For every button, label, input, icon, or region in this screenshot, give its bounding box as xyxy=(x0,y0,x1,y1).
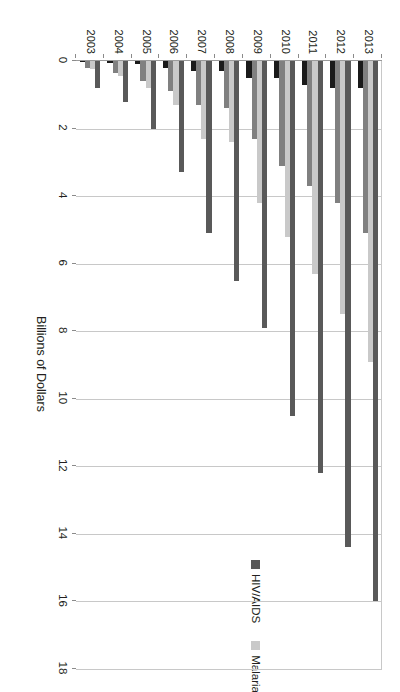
bar-hss-2011[interactable] xyxy=(302,61,307,85)
category-axis-tick xyxy=(270,54,271,58)
bar-hiv-aids-2003[interactable] xyxy=(95,61,100,88)
bar-malaria-2012[interactable] xyxy=(340,61,345,314)
bar-hss-2009[interactable] xyxy=(246,61,251,78)
category-axis-tick xyxy=(242,54,243,58)
bar-tuberculosis-2012[interactable] xyxy=(335,61,340,203)
bar-tuberculosis-2010[interactable] xyxy=(279,61,284,166)
value-axis-tick xyxy=(72,60,76,61)
category-axis-tick xyxy=(75,54,76,58)
category-axis-label-2005: 2005 xyxy=(140,30,151,54)
bar-hiv-aids-2006[interactable] xyxy=(179,61,184,172)
category-axis-label-2004: 2004 xyxy=(112,30,123,54)
bar-hiv-aids-2011[interactable] xyxy=(318,61,323,473)
bar-hss-2003[interactable] xyxy=(80,61,85,62)
category-axis-tick xyxy=(353,54,354,58)
bar-malaria-2007[interactable] xyxy=(201,61,206,139)
bar-row xyxy=(358,61,363,669)
bar-row xyxy=(191,61,196,669)
bar-hss-2013[interactable] xyxy=(358,61,363,88)
value-axis-tick-label: 12 xyxy=(57,459,69,472)
category-axis-label-2003: 2003 xyxy=(84,30,95,54)
bar-malaria-2008[interactable] xyxy=(229,61,234,142)
category-axis-label-2013: 2013 xyxy=(363,30,374,54)
value-axis-tick xyxy=(72,195,76,196)
bar-row xyxy=(201,61,206,669)
bar-hss-2006[interactable] xyxy=(163,61,168,68)
bar-row xyxy=(262,61,267,669)
bar-row xyxy=(290,61,295,669)
category-axis-label-2010: 2010 xyxy=(279,30,290,54)
bar-row xyxy=(168,61,173,669)
value-axis-tick xyxy=(72,600,76,601)
bar-row xyxy=(279,61,284,669)
bar-malaria-2011[interactable] xyxy=(312,61,317,274)
bar-hss-2007[interactable] xyxy=(191,61,196,71)
gridline xyxy=(76,669,382,670)
bar-chart-figure: HIV/AIDSMalariaTuberculosisHSS 024681012… xyxy=(0,0,400,692)
bar-group-2003 xyxy=(76,61,104,669)
value-axis-tick-label: 2 xyxy=(57,124,69,130)
value-axis-tick-label: 0 xyxy=(57,57,69,63)
bar-tuberculosis-2007[interactable] xyxy=(196,61,201,105)
value-axis-tick xyxy=(72,263,76,264)
bar-hss-2004[interactable] xyxy=(107,61,112,63)
bar-tuberculosis-2013[interactable] xyxy=(363,61,368,233)
category-axis-label-2012: 2012 xyxy=(335,30,346,54)
bar-malaria-2010[interactable] xyxy=(285,61,290,237)
bar-malaria-2005[interactable] xyxy=(146,61,151,88)
bar-hiv-aids-2008[interactable] xyxy=(234,61,239,281)
plot-area xyxy=(76,60,382,669)
value-axis-tick xyxy=(72,465,76,466)
bar-row xyxy=(95,61,100,669)
category-axis-tick xyxy=(186,54,187,58)
bar-hiv-aids-2009[interactable] xyxy=(262,61,267,328)
bar-tuberculosis-2005[interactable] xyxy=(140,61,145,81)
rotated-figure-wrapper: HIV/AIDSMalariaTuberculosisHSS 024681012… xyxy=(0,0,400,692)
bar-hss-2010[interactable] xyxy=(274,61,279,78)
value-axis-tick xyxy=(72,128,76,129)
bar-row xyxy=(135,61,140,669)
bar-tuberculosis-2004[interactable] xyxy=(113,61,118,73)
bar-malaria-2003[interactable] xyxy=(90,61,95,69)
bar-tuberculosis-2011[interactable] xyxy=(307,61,312,186)
bar-tuberculosis-2008[interactable] xyxy=(224,61,229,108)
bar-row xyxy=(345,61,350,669)
bar-row xyxy=(330,61,335,669)
bar-hiv-aids-2007[interactable] xyxy=(206,61,211,233)
bar-row xyxy=(173,61,178,669)
category-axis-tick xyxy=(131,54,132,58)
category-axis-tick xyxy=(325,54,326,58)
value-axis-tick-label: 6 xyxy=(57,259,69,265)
bar-hiv-aids-2005[interactable] xyxy=(151,61,156,129)
bar-hiv-aids-2013[interactable] xyxy=(373,61,378,601)
value-axis-tick xyxy=(72,668,76,669)
bar-row xyxy=(368,61,373,669)
bar-hiv-aids-2004[interactable] xyxy=(123,61,128,102)
bar-hss-2008[interactable] xyxy=(219,61,224,71)
value-axis-tick-label: 16 xyxy=(57,594,69,607)
bar-tuberculosis-2003[interactable] xyxy=(85,61,90,68)
bar-row xyxy=(373,61,378,669)
category-axis-label-2006: 2006 xyxy=(168,30,179,54)
bar-tuberculosis-2006[interactable] xyxy=(168,61,173,91)
bar-malaria-2013[interactable] xyxy=(368,61,373,362)
bar-malaria-2004[interactable] xyxy=(118,61,123,76)
bar-row xyxy=(318,61,323,669)
category-axis-tick xyxy=(298,54,299,58)
category-axis: 2003200420052006200720082009201020112012… xyxy=(76,22,382,58)
bar-group-2004 xyxy=(104,61,132,669)
bar-row xyxy=(123,61,128,669)
bar-hiv-aids-2010[interactable] xyxy=(290,61,295,416)
bar-malaria-2009[interactable] xyxy=(257,61,262,203)
bar-row xyxy=(285,61,290,669)
bar-tuberculosis-2009[interactable] xyxy=(252,61,257,139)
category-axis-tick xyxy=(103,54,104,58)
bar-hss-2005[interactable] xyxy=(135,61,140,64)
bar-hss-2012[interactable] xyxy=(330,61,335,88)
bar-row xyxy=(274,61,279,669)
category-axis-tick xyxy=(381,54,382,58)
bar-row xyxy=(246,61,251,669)
bar-hiv-aids-2012[interactable] xyxy=(345,61,350,547)
bar-malaria-2006[interactable] xyxy=(173,61,178,105)
bar-row xyxy=(312,61,317,669)
